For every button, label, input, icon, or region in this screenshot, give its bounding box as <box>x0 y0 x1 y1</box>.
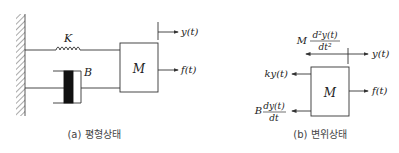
displacement-label: y(t) <box>180 26 199 37</box>
damper-numerator: dy(t) <box>263 101 285 111</box>
caption-a: (a) 평형상태 <box>67 129 120 140</box>
caption-b: (b) 변위상태 <box>293 128 346 140</box>
diagram-b-displaced: M d²y(t) dt² y(t) M ky(t) B dy(t) dt f(t… <box>254 30 390 140</box>
displacement-label: y(t) <box>371 48 390 59</box>
damper-denominator: dt <box>269 113 279 123</box>
spring-force-label: ky(t) <box>264 68 288 79</box>
inertia-denominator: dt² <box>319 42 332 52</box>
mass-label: M <box>132 62 146 76</box>
damper-icon <box>25 71 120 103</box>
mechanical-system-diagram: K B M y(t) f(t) (a) 평형상태 M d²y(t) dt² <box>0 0 399 153</box>
fixed-wall <box>16 14 25 116</box>
inertia-numerator: d²y(t) <box>312 30 338 40</box>
damper-label: B <box>83 66 92 79</box>
diagram-a-equilibrium: K B M y(t) f(t) (a) 평형상태 <box>16 14 199 140</box>
inertia-coef: M <box>296 35 308 46</box>
spring-label: K <box>63 32 73 45</box>
force-label: f(t) <box>371 85 388 96</box>
spring-icon <box>25 47 120 50</box>
mass-label: M <box>323 86 337 100</box>
damper-coef: B <box>254 105 262 116</box>
force-label: f(t) <box>180 64 197 75</box>
